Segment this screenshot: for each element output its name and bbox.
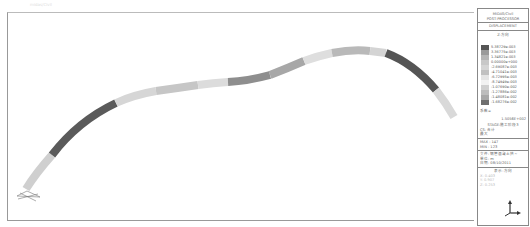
scale-value: -1.68276e-002 [491,100,517,105]
axis-triad-icon [502,199,522,219]
legend-min: MIN : 123 [478,145,528,150]
support-icon [17,191,40,201]
legend-module: POST-PROCESSOR [478,17,528,22]
scale-value: -1.48081e-002 [491,95,517,100]
legend-factor-value: 1.5056E+002 [478,117,528,122]
scale-value: 3.36775e-003 [491,50,516,55]
scale-value: -2.69087e-003 [491,65,517,70]
scale-value: -8.74949e-003 [491,80,517,85]
swatch [481,100,489,105]
arch-model-rendering [8,13,474,220]
scale-value: 1.34821e-003 [491,55,516,60]
legend-z-value: Z: 0.253 [478,183,528,188]
scale-value: 5.38729e-003 [491,45,516,50]
color-scale: 5.38729e-003 3.36775e-003 1.34821e-003 0… [481,45,526,105]
scale-value: 0.00000e+000 [491,60,517,65]
scale-value: -4.71041e-003 [491,70,517,75]
scale-value: -1.07690e-002 [491,85,517,90]
result-legend-panel: MIDAS/Civil POST-PROCESSOR DISPLACEMENT … [477,8,529,226]
legend-component: Z-方向 [478,33,528,38]
scale-value: -6.72995e-003 [491,75,517,80]
legend-result-type: DISPLACEMENT [478,24,528,29]
viewport-title: midas/Civil [30,2,52,7]
legend-factor-label: 系数= [478,109,528,114]
legend-date: 日期: 08/10/2011 [478,161,528,166]
model-viewport[interactable] [7,12,474,221]
legend-extra: 最大 [478,132,528,137]
scale-value: -1.27886e-002 [491,90,517,95]
